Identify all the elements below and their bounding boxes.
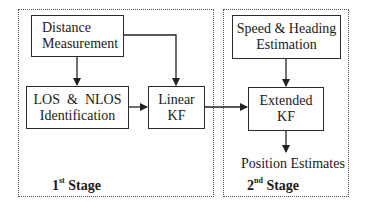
distance-measurement-line1: Distance: [42, 20, 118, 36]
los-nlos-identification-block: LOS & NLOS Identification: [26, 86, 129, 129]
position-estimates-label: Position Estimates: [241, 156, 345, 172]
stage-2-suffix: nd: [254, 176, 263, 185]
extended-kf-line1: Extended: [260, 93, 313, 109]
stage-2-word: Stage: [266, 178, 299, 193]
extended-kf-line2: KF: [260, 109, 313, 125]
stage-2-label: 2nd Stage: [247, 178, 299, 194]
distance-measurement-line2: Measurement: [42, 36, 118, 52]
speed-heading-line1: Speed & Heading: [237, 21, 337, 37]
los-nlos-line1: LOS & NLOS: [34, 92, 122, 108]
stage-1-suffix: st: [59, 176, 65, 185]
distance-measurement-block: Distance Measurement: [31, 15, 124, 57]
extended-kf-block: Extended KF: [248, 87, 324, 131]
stage-2-number: 2: [247, 178, 254, 193]
linear-kf-line1: Linear: [158, 92, 195, 108]
linear-kf-block: Linear KF: [148, 86, 205, 129]
stage-1-number: 1: [52, 178, 59, 193]
edge-distance-to-linear-kf: [123, 35, 176, 85]
linear-kf-line2: KF: [158, 108, 195, 124]
stage-1-word: Stage: [68, 178, 101, 193]
stage-1-label: 1st Stage: [52, 178, 101, 194]
los-nlos-line2: Identification: [34, 108, 122, 124]
speed-heading-estimation-block: Speed & Heading Estimation: [232, 15, 341, 59]
speed-heading-line2: Estimation: [237, 37, 337, 53]
